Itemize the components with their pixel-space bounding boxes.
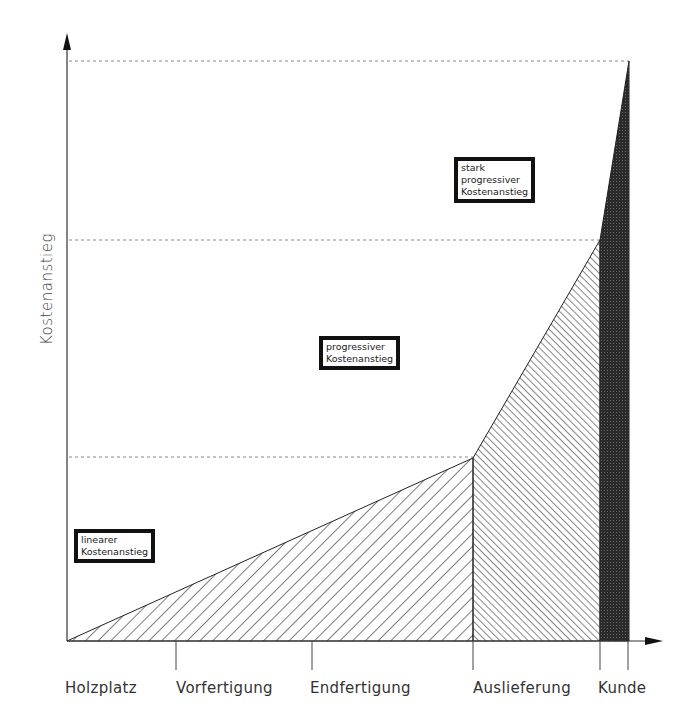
annotation-strong-progressive: stark progressiver Kostenanstieg xyxy=(454,157,535,203)
annotation-linear: linearer Kostenanstieg xyxy=(74,529,155,563)
annotation-linear-line2: Kostenanstieg xyxy=(81,546,148,558)
annotation-linear-line1: linearer xyxy=(81,534,148,546)
annotation-strong-progressive-line1: stark xyxy=(461,162,528,174)
x-label-endfertigung: Endfertigung xyxy=(310,679,411,697)
x-label-kunde: Kunde xyxy=(598,679,646,697)
x-label-vorfertigung: Vorfertigung xyxy=(176,679,273,697)
progressive-cost-region xyxy=(473,240,600,641)
x-axis-arrow-icon xyxy=(645,637,663,645)
annotation-progressive-line1: progressiver xyxy=(326,341,393,353)
y-axis-arrow-icon xyxy=(63,33,71,50)
y-axis-label: Kostenanstieg xyxy=(38,233,56,345)
x-label-holzplatz: Holzplatz xyxy=(65,679,137,697)
strong-progressive-cost-region xyxy=(600,61,629,641)
annotation-strong-progressive-line2: progressiver xyxy=(461,174,528,186)
annotation-progressive: progressiver Kostenanstieg xyxy=(319,336,400,370)
x-label-auslieferung: Auslieferung xyxy=(473,679,571,697)
annotation-progressive-line2: Kostenanstieg xyxy=(326,353,393,365)
annotation-strong-progressive-line3: Kostenanstieg xyxy=(461,186,528,198)
